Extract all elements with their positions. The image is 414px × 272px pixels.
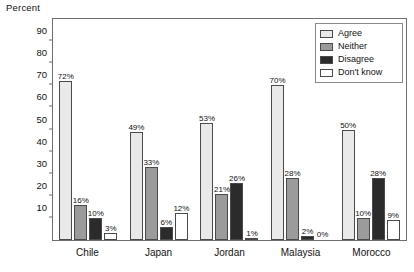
bar-value-label: 72% (58, 73, 74, 81)
bar[interactable]: 2% (301, 236, 314, 240)
x-axis-category-label: Chile (52, 243, 123, 265)
bar[interactable]: 53% (200, 123, 213, 240)
bar-slot: 28% (286, 19, 299, 240)
y-tick-label: 80 (36, 47, 47, 58)
bar-value-label: 10% (355, 210, 371, 218)
bar-value-label: 50% (340, 122, 356, 130)
bar-slot: 53% (200, 19, 213, 240)
bar-slot: 49% (130, 19, 143, 240)
bar-value-label: 21% (214, 186, 230, 194)
bar-value-label: 70% (270, 77, 286, 85)
bar-value-label: 28% (285, 170, 301, 178)
bar[interactable]: 16% (74, 205, 87, 240)
bar-value-label: 10% (88, 210, 104, 218)
x-axis-category-label: Jordan (194, 243, 265, 265)
bar-slot: 33% (145, 19, 158, 240)
bar-slot: 16% (74, 19, 87, 240)
chart-legend: AgreeNeitherDisagreeDon't know (315, 23, 403, 83)
bar[interactable]: 10% (89, 218, 102, 240)
legend-item[interactable]: Neither (320, 40, 398, 53)
legend-item-label: Agree (338, 29, 362, 38)
y-tick-label: 60 (36, 91, 47, 102)
bar[interactable]: 21% (215, 194, 228, 240)
bar-value-label: 16% (73, 197, 89, 205)
y-tick-label: 50 (36, 113, 47, 124)
bar-value-label: 9% (387, 212, 399, 220)
bar-value-label: 1% (246, 230, 258, 238)
bar-slot: 1% (245, 19, 258, 240)
legend-swatch-icon (320, 56, 333, 64)
legend-item-label: Disagree (338, 55, 374, 64)
bar-value-label: 12% (173, 205, 189, 213)
bar-slot: 70% (271, 19, 284, 240)
bar[interactable]: 70% (271, 85, 284, 240)
y-tick-label: 30 (36, 157, 47, 168)
bar-slot: 6% (160, 19, 173, 240)
legend-item[interactable]: Agree (320, 27, 398, 40)
bar[interactable]: 9% (387, 220, 400, 240)
legend-swatch-icon (320, 43, 333, 51)
x-axis-category-label: Japan (123, 243, 194, 265)
y-tick-label: 40 (36, 135, 47, 146)
legend-swatch-icon (320, 69, 333, 77)
bar-slot: 21% (215, 19, 228, 240)
bar[interactable]: 6% (160, 227, 173, 240)
legend-swatch-icon (320, 30, 333, 38)
bar-value-label: 26% (229, 175, 245, 183)
bar[interactable]: 12% (175, 213, 188, 240)
bar-slot: 10% (89, 19, 102, 240)
bar-value-label: 6% (161, 219, 173, 227)
legend-item[interactable]: Don't know (320, 66, 398, 79)
bar-slot: 26% (230, 19, 243, 240)
bar-slot: 12% (175, 19, 188, 240)
legend-item-label: Don't know (338, 68, 382, 77)
bar-value-label: 2% (302, 228, 314, 236)
bar[interactable]: 72% (59, 81, 72, 240)
bar[interactable]: 1% (245, 238, 258, 240)
bar[interactable]: 49% (130, 132, 143, 240)
bar-group: 49%33%6%12% (124, 19, 195, 240)
bar-value-label: 28% (370, 170, 386, 178)
bar-chart: Percent 102030405060708090 72%16%10%3%49… (0, 0, 414, 272)
bar[interactable]: 33% (145, 167, 158, 240)
x-axis-labels: ChileJapanJordanMalaysiaMorocco (52, 243, 407, 265)
bar-value-label: 49% (128, 124, 144, 132)
bar-value-label: 0% (317, 231, 329, 239)
bar[interactable]: 50% (342, 130, 355, 241)
legend-item-label: Neither (338, 42, 367, 51)
bar-group: 72%16%10%3% (53, 19, 124, 240)
bar[interactable]: 28% (372, 178, 385, 240)
x-axis-category-label: Malaysia (265, 243, 336, 265)
bar-value-label: 33% (143, 159, 159, 167)
y-tick-label: 90 (36, 25, 47, 36)
bar[interactable]: 3% (104, 233, 117, 240)
bar-slot: 2% (301, 19, 314, 240)
x-axis-category-label: Morocco (336, 243, 407, 265)
y-tick-label: 10 (36, 201, 47, 212)
y-tick-label: 70 (36, 69, 47, 80)
y-tick-label: 20 (36, 179, 47, 190)
bar[interactable]: 28% (286, 178, 299, 240)
legend-item[interactable]: Disagree (320, 53, 398, 66)
bar[interactable]: 10% (357, 218, 370, 240)
bar-value-label: 53% (199, 115, 215, 123)
bar[interactable]: 26% (230, 183, 243, 240)
bar-value-label: 3% (105, 225, 117, 233)
bar-slot: 72% (59, 19, 72, 240)
bar-group: 53%21%26%1% (194, 19, 265, 240)
bar-slot: 3% (104, 19, 117, 240)
y-axis-title: Percent (6, 2, 40, 13)
